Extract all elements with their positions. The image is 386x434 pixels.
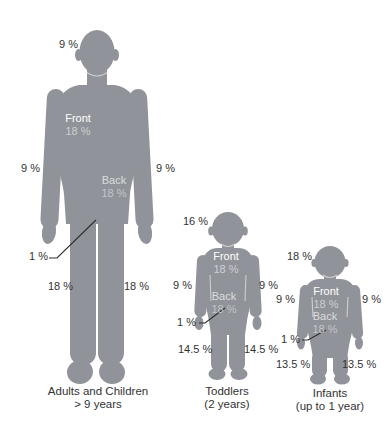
infant-right-leg-pct-label: 13.5 % [342,358,376,371]
rule-of-nines-diagram: 9 % Front 18 % 9 % 9 % Back 18 % 1 % 18 … [0,0,386,434]
adult-caption-line1: Adults and Children [28,385,168,398]
infant-back-title: Back [303,310,347,323]
infant-caption-line1: Infants [280,387,380,400]
infant-left-arm-pct-label: 9 % [273,293,295,306]
toddler-caption-line1: Toddlers [177,385,277,398]
toddler-front-value: 18 % [204,263,248,276]
toddler-front-title: Front [204,250,248,263]
adult-front-value: 18 % [58,125,98,138]
toddler-head-pct-label: 16 % [180,215,208,228]
infant-right-arm-pct-label: 9 % [362,293,381,306]
adult-caption: Adults and Children > 9 years [28,385,168,411]
infant-front-value: 18 % [304,298,348,311]
adult-caption-line2: > 9 years [28,398,168,411]
adult-genitals-pct-label: 1 % [29,250,47,263]
adult-right-arm-pct-label: 9 % [156,162,175,175]
adult-back-value: 18 % [92,187,136,200]
adult-head-pct-label: 9 % [44,38,78,51]
toddler-right-leg-pct-label: 14.5 % [244,343,278,356]
infant-head-pct-label: 18 % [284,250,312,263]
adult-body-shape [40,30,154,386]
adult-right-leg-pct-label: 18 % [124,280,149,293]
infant-back-label: Back 18 % [303,310,347,335]
infant-caption-line2: (up to 1 year) [280,400,380,413]
adult-back-title: Back [92,174,136,187]
adult-back-label: Back 18 % [92,174,136,199]
adult-silhouette [37,28,157,388]
adult-left-leg-pct-label: 18 % [48,280,72,293]
infant-front-label: Front 18 % [304,285,348,310]
adult-front-title: Front [58,112,98,125]
toddler-left-arm-pct-label: 9 % [170,279,192,292]
toddler-back-label: Back 18 % [202,290,246,315]
toddler-back-title: Back [202,290,246,303]
infant-back-value: 18 % [303,323,347,336]
toddler-left-leg-pct-label: 14.5 % [178,343,208,356]
toddler-back-value: 18 % [202,303,246,316]
toddler-caption: Toddlers (2 years) [177,385,277,411]
toddler-genitals-pct-label: 1 % [177,316,195,329]
infant-caption: Infants (up to 1 year) [280,387,380,413]
infant-genitals-pct-label: 1 % [281,333,299,346]
infant-front-title: Front [304,285,348,298]
adult-left-arm-pct-label: 9 % [18,162,40,175]
toddler-caption-line2: (2 years) [177,398,277,411]
adult-front-label: Front 18 % [58,112,98,137]
infant-left-leg-pct-label: 13.5 % [276,358,307,371]
toddler-front-label: Front 18 % [204,250,248,275]
toddler-right-arm-pct-label: 9 % [259,279,278,292]
